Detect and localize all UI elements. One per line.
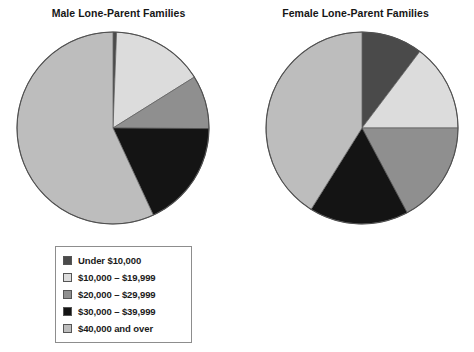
pie-chart-male <box>16 31 210 225</box>
legend-label: $20,000 – $29,999 <box>78 289 156 300</box>
legend-item[interactable]: $20,000 – $29,999 <box>63 286 182 303</box>
legend-label: $10,000 – $19,999 <box>78 272 156 283</box>
chart-panel-male: Male Lone-Parent Families Under $10,000 … <box>0 0 237 352</box>
pie-chart-female <box>265 31 459 225</box>
legend-label: $30,000 – $39,999 <box>78 306 156 317</box>
legend-item[interactable]: $30,000 – $39,999 <box>63 303 182 320</box>
chart-panel-female: Female Lone-Parent Families Under $10,00… <box>237 0 474 352</box>
legend-item[interactable]: $40,000 and over <box>63 320 182 337</box>
legend-swatch-40000-and-over <box>63 324 72 333</box>
chart-title-female: Female Lone-Parent Families <box>237 7 474 19</box>
legend-item[interactable]: Under $10,000 <box>63 252 182 269</box>
legend-swatch-20000-29999 <box>63 290 72 299</box>
legend-label: $40,000 and over <box>78 323 153 334</box>
legend-item[interactable]: $10,000 – $19,999 <box>63 269 182 286</box>
legend-swatch-under-10000 <box>63 256 72 265</box>
legend-male: Under $10,000 $10,000 – $19,999 $20,000 … <box>55 246 192 343</box>
pie-svg-male <box>16 31 210 225</box>
legend-label: Under $10,000 <box>78 255 141 266</box>
legend-swatch-30000-39999 <box>63 307 72 316</box>
legend-swatch-10000-19999 <box>63 273 72 282</box>
chart-title-male: Male Lone-Parent Families <box>0 7 237 19</box>
pie-svg-female <box>265 31 459 225</box>
